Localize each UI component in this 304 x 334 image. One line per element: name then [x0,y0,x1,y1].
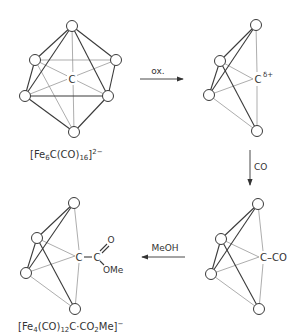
carbide-co-label: C–CO [260,252,287,263]
fe-atoms [206,199,265,315]
octahedral-cluster: C [Fe6C(CO)16]2− [20,21,122,163]
methoxy-label: OMe [103,265,124,275]
arrow-oxidation: ox. [140,66,183,79]
ester-group: C O OMe [84,235,124,275]
carbide-label: C [255,74,262,85]
carbonyl-oxygen-label: O [107,235,114,245]
arrow-label-co: CO [254,162,267,172]
arrow-methanolysis: MeOH [142,243,185,257]
formula-fe6: [Fe6C(CO)16]2− [30,148,103,162]
reaction-scheme: C [Fe6C(CO)16]2− ox. [0,0,304,334]
back-bonds [211,204,263,309]
front-bonds [209,25,257,131]
partial-charge-label: δ+ [263,71,273,79]
fe-atoms [21,198,81,315]
butterfly-cluster-cation: C δ+ [204,20,274,137]
front-bonds [211,204,259,309]
formula-fe4-ester: [Fe4(CO)12C·CO2Me]− [18,320,123,334]
arrow-carbonylation: CO [250,150,267,185]
arrow-label-meoh: MeOH [151,243,178,253]
back-bonds [26,203,79,309]
front-bonds [26,203,75,309]
arrow-label-ox: ox. [151,66,164,76]
butterfly-cluster-co: C–CO [206,199,287,315]
back-bonds [209,25,257,131]
carbide-label: C [76,252,83,263]
ester-carbon-label: C [94,252,101,263]
carbide-label: C [69,74,76,85]
butterfly-cluster-ester: C C O OMe [Fe4(CO)12C·CO2Me]− [18,198,124,334]
